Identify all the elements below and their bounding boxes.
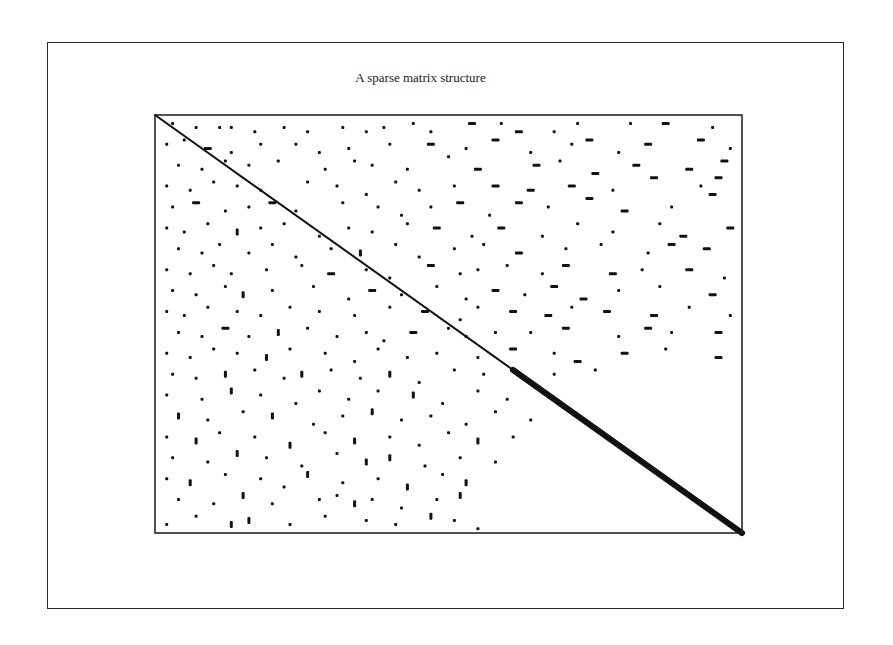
nonzero-entry — [177, 247, 180, 250]
nonzero-entry — [365, 331, 368, 334]
nonzero-entry — [650, 314, 658, 317]
nonzero-entry — [699, 185, 702, 188]
nonzero-entry — [189, 272, 192, 275]
nonzero-entry — [400, 293, 403, 296]
nonzero-entry — [212, 348, 215, 351]
nonzero-entry — [429, 415, 432, 418]
nonzero-entry — [427, 143, 435, 146]
nonzero-entry — [165, 185, 168, 188]
nonzero-entry — [353, 160, 356, 163]
nonzero-entry — [371, 408, 374, 415]
nonzero-entry — [515, 201, 523, 204]
nonzero-entry — [171, 373, 174, 376]
nonzero-entry — [165, 477, 168, 480]
nonzero-entry — [177, 164, 180, 167]
nonzero-entry — [377, 206, 380, 209]
nonzero-entry — [253, 369, 256, 372]
nonzero-entry — [515, 251, 523, 254]
nonzero-entry — [453, 185, 456, 188]
nonzero-entry — [294, 143, 297, 146]
nonzero-entry — [171, 206, 174, 209]
nonzero-entry — [715, 356, 723, 359]
nonzero-entry — [265, 354, 268, 361]
nonzero-entry — [720, 160, 728, 163]
nonzero-entry — [476, 438, 479, 445]
nonzero-entry — [609, 272, 617, 275]
nonzero-entry — [576, 222, 579, 225]
nonzero-entry — [562, 264, 570, 267]
nonzero-entry — [218, 126, 221, 129]
nonzero-entry — [353, 360, 356, 363]
nonzero-entry — [679, 235, 687, 238]
nonzero-entry — [353, 314, 356, 317]
nonzero-entry — [277, 329, 280, 336]
nonzero-entry — [195, 438, 198, 445]
nonzero-entry — [294, 210, 297, 213]
nonzero-entry — [347, 147, 350, 150]
nonzero-entry — [585, 139, 593, 142]
nonzero-entry — [533, 164, 541, 167]
nonzero-entry — [165, 435, 168, 438]
nonzero-entry — [629, 122, 632, 125]
nonzero-entry — [468, 122, 476, 125]
nonzero-entry — [377, 477, 380, 480]
nonzero-entry — [271, 289, 274, 292]
nonzero-entry — [729, 147, 732, 150]
nonzero-entry — [427, 264, 435, 267]
nonzero-entry — [412, 392, 415, 399]
nonzero-entry — [289, 348, 292, 351]
nonzero-entry — [318, 151, 321, 154]
nonzero-entry — [476, 268, 479, 271]
nonzero-entry — [509, 310, 517, 313]
nonzero-entry — [347, 297, 350, 300]
nonzero-entry — [644, 327, 652, 330]
nonzero-entry — [512, 435, 515, 438]
nonzero-entry — [224, 473, 227, 476]
nonzero-entry — [165, 394, 168, 397]
nonzero-entry — [259, 226, 262, 229]
nonzero-entry — [453, 519, 456, 522]
nonzero-entry — [371, 164, 374, 167]
nonzero-entry — [318, 235, 321, 238]
nonzero-entry — [658, 285, 661, 288]
nonzero-entry — [424, 465, 427, 468]
nonzero-entry — [465, 297, 468, 300]
nonzero-entry — [685, 168, 693, 171]
nonzero-entry — [324, 352, 327, 355]
nonzero-entry — [336, 452, 339, 455]
nonzero-entry — [218, 243, 221, 246]
nonzero-entry — [523, 293, 526, 296]
nonzero-entry — [688, 306, 691, 309]
nonzero-entry — [715, 331, 723, 334]
nonzero-entry — [544, 314, 552, 317]
nonzero-entry — [621, 352, 629, 355]
nonzero-entry — [189, 189, 192, 192]
nonzero-entry — [177, 413, 180, 420]
nonzero-entry — [183, 231, 186, 234]
nonzero-entry — [476, 527, 479, 530]
nonzero-entry — [621, 210, 629, 213]
nonzero-entry — [723, 277, 726, 280]
nonzero-entry — [365, 130, 368, 133]
nonzero-entry — [527, 189, 535, 192]
nonzero-entry — [400, 214, 403, 217]
nonzero-entry — [230, 272, 233, 275]
nonzero-entry — [330, 369, 333, 372]
nonzero-entry — [341, 415, 344, 418]
nonzero-entry — [230, 387, 233, 394]
nonzero-entry — [664, 348, 667, 351]
nonzero-entry — [500, 122, 503, 125]
nonzero-entry — [515, 130, 523, 133]
nonzero-entry — [412, 122, 415, 125]
nonzero-entry — [471, 235, 474, 238]
nonzero-entry — [212, 502, 215, 505]
nonzero-entry — [418, 381, 421, 384]
nonzero-entry — [447, 431, 450, 434]
nonzero-entry — [459, 456, 462, 459]
nonzero-entry — [494, 410, 497, 413]
nonzero-entry — [435, 498, 438, 501]
nonzero-entry — [289, 306, 292, 309]
nonzero-entry — [400, 419, 403, 422]
nonzero-entry — [218, 431, 221, 434]
nonzero-entry — [632, 164, 640, 167]
